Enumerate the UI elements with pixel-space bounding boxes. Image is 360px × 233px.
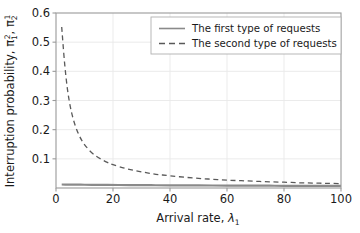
legend-label-second-type: The second type of requests — [191, 38, 337, 49]
x-axis-tick-labels: 020406080100 — [52, 192, 352, 206]
x-tick-label: 80 — [277, 192, 292, 206]
x-tick-label: 20 — [106, 192, 121, 206]
y-tick-label: 0.4 — [32, 64, 50, 78]
x-tick-label: 60 — [220, 192, 235, 206]
series-line-first-type — [62, 185, 341, 186]
x-tick-label: 40 — [163, 192, 178, 206]
y-axis-tick-labels: 0.10.20.30.40.50.6 — [32, 6, 50, 166]
x-tick-label: 0 — [52, 192, 59, 206]
y-tick-label: 0.3 — [32, 94, 50, 108]
legend[interactable]: The first type of requests The second ty… — [151, 17, 341, 54]
y-tick-label: 0.5 — [32, 35, 50, 49]
legend-label-first-type: The first type of requests — [191, 23, 320, 34]
x-tick-label: 100 — [330, 192, 352, 206]
y-tick-label: 0.6 — [32, 6, 50, 20]
y-axis-title: Interruption probability, π12, π21 — [3, 15, 19, 188]
y-tick-label: 0.2 — [32, 123, 50, 137]
x-axis-title: Arrival rate, λ1 — [156, 211, 240, 227]
line-chart: 020406080100 0.10.20.30.40.50.6 Arrival … — [0, 0, 360, 233]
chart-figure: 020406080100 0.10.20.30.40.50.6 Arrival … — [0, 0, 360, 233]
y-tick-label: 0.1 — [32, 152, 50, 166]
